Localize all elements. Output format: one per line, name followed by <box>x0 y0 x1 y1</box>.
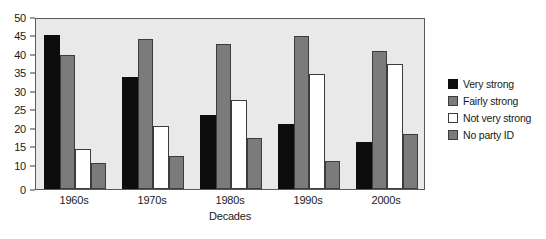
x-axis-title: Decades <box>209 210 251 222</box>
bar <box>309 74 325 189</box>
y-axis-tick-mark <box>30 110 35 111</box>
y-axis-tick-label: 50 <box>14 12 26 24</box>
y-axis-tick-label: 40 <box>14 49 26 61</box>
bar <box>278 124 294 189</box>
x-axis-tick-label: 1980s <box>216 194 245 206</box>
y-axis-tick-label: 20 <box>14 123 26 135</box>
y-axis-tick-label: 0 <box>20 184 26 196</box>
bar <box>216 44 232 189</box>
bar-group <box>36 19 114 189</box>
legend-item-label: No party ID <box>463 129 514 141</box>
bar <box>356 142 372 189</box>
x-axis-tick-label: 1990s <box>294 194 323 206</box>
bar <box>44 35 60 189</box>
bar <box>200 115 216 189</box>
y-axis-tick-label: 35 <box>14 67 26 79</box>
x-axis-tick-label: 2000s <box>372 194 401 206</box>
legend-swatch-icon <box>448 113 458 123</box>
y-axis-tick-mark <box>30 18 35 19</box>
legend-item: Very strong <box>448 76 544 92</box>
bar <box>122 77 138 189</box>
y-axis-tick-mark <box>30 190 35 191</box>
y-axis-tick-mark <box>30 91 35 92</box>
x-axis-tick-label: 1960s <box>60 194 89 206</box>
y-axis-tick-label: 10 <box>14 160 26 172</box>
y-axis-tick-mark <box>30 54 35 55</box>
bar <box>169 156 185 189</box>
plot-inner <box>36 19 424 189</box>
x-axis-tick-label: 1970s <box>138 194 167 206</box>
y-axis-tick-mark <box>30 36 35 37</box>
y-axis: 0101520253035404550 <box>0 0 30 239</box>
y-axis-tick-mark <box>30 128 35 129</box>
bar-group <box>348 19 426 189</box>
bar <box>231 100 247 189</box>
bar <box>372 51 388 189</box>
bar-group <box>192 19 270 189</box>
legend-item-label: Not very strong <box>463 112 531 124</box>
legend-item-label: Fairly strong <box>463 95 518 107</box>
bar <box>403 134 419 189</box>
bar <box>387 64 403 189</box>
bar <box>153 126 169 189</box>
bar <box>91 163 107 189</box>
legend-item-label: Very strong <box>463 78 514 90</box>
y-axis-tick-label: 45 <box>14 30 26 42</box>
legend-swatch-icon <box>448 130 458 140</box>
y-axis-tick-label: 30 <box>14 86 26 98</box>
bar <box>75 149 91 189</box>
bar <box>247 138 263 189</box>
bar <box>138 39 154 189</box>
bar-group <box>114 19 192 189</box>
bar <box>60 55 76 189</box>
legend-swatch-icon <box>448 96 458 106</box>
legend-swatch-icon <box>448 79 458 89</box>
bar-group <box>270 19 348 189</box>
y-axis-tick-mark <box>30 165 35 166</box>
legend-item: Not very strong <box>448 110 544 126</box>
bar <box>325 161 341 189</box>
legend: Very strongFairly strongNot very strongN… <box>448 76 544 144</box>
plot-area <box>35 18 425 190</box>
y-axis-tick-label: 25 <box>14 104 26 116</box>
legend-item: Fairly strong <box>448 93 544 109</box>
bar <box>294 36 310 189</box>
y-axis-tick-mark <box>30 73 35 74</box>
bar-chart: 0101520253035404550 Decades Very strongF… <box>0 0 546 239</box>
y-axis-tick-label: 15 <box>14 141 26 153</box>
y-axis-tick-mark <box>30 147 35 148</box>
legend-item: No party ID <box>448 127 544 143</box>
